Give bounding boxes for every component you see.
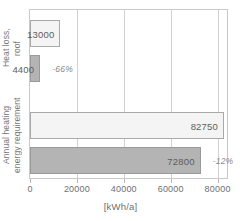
x-tick-label: 60000	[158, 184, 184, 194]
category-label-annual-heating: Annual heating energy requirement	[1, 92, 25, 178]
x-tick-label: 80000	[205, 184, 231, 194]
x-tick-mark	[124, 179, 125, 183]
category-label-line1: Annual heating	[1, 92, 12, 178]
x-tick-label: 0	[27, 184, 32, 194]
x-tick-mark	[218, 179, 219, 183]
bar-dark-4400: 4400	[30, 55, 40, 82]
bar-value-label: 82750	[191, 120, 218, 131]
bar-value-label: 4400	[12, 63, 34, 74]
bar-dark-72800: 72800	[30, 147, 201, 174]
bar-value-label: 72800	[167, 155, 194, 166]
category-label-line2: roof	[12, 8, 23, 88]
x-tick-mark	[30, 179, 31, 183]
bar-percent-annotation: -12%	[213, 156, 234, 166]
bar-percent-annotation: -66%	[52, 64, 73, 74]
bar-light-13000: 13000	[30, 20, 60, 47]
category-label-line1: Heat loss,	[1, 8, 12, 88]
x-tick-label: 40000	[111, 184, 137, 194]
x-tick-mark	[77, 179, 78, 183]
x-tick-mark	[171, 179, 172, 183]
x-tick-label: 20000	[64, 184, 90, 194]
gridline	[218, 10, 219, 178]
plot-area: 130004400-66%8275072800-12%	[29, 9, 228, 179]
x-axis-title: [kWh/a]	[0, 201, 241, 212]
bar-value-label: 13000	[27, 28, 54, 39]
bar-chart: Heat loss, roof Annual heating energy re…	[0, 0, 241, 221]
category-label-line2: energy requirement	[12, 92, 23, 178]
bar-light-82750: 82750	[30, 112, 224, 139]
category-label-heat-loss: Heat loss, roof	[1, 8, 25, 88]
